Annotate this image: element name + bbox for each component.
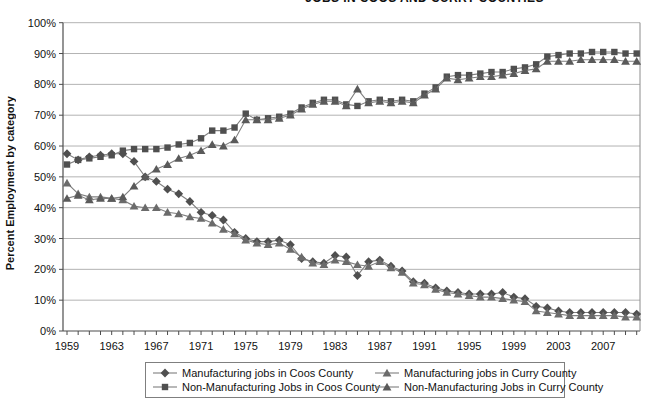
plot-area: 0%10%20%30%40%50%60%70%80%90%100%1959196… <box>0 0 649 360</box>
triangle-marker-icon <box>208 219 217 227</box>
legend: Manufacturing jobs in Coos County Manufa… <box>145 362 565 398</box>
y-tick-label: 40% <box>34 202 56 214</box>
diamond-marker-icon <box>208 211 217 220</box>
series-line <box>67 52 637 165</box>
series-line <box>67 60 637 200</box>
triangle-marker-icon <box>185 151 194 159</box>
square-marker-icon <box>164 144 170 150</box>
triangle-marker-icon <box>63 179 72 187</box>
legend-item-nonmfg-curry: Non-Manufacturing Jobs in Curry County <box>374 381 603 393</box>
series-0 <box>63 149 642 318</box>
x-tick-label: 1987 <box>368 340 392 352</box>
series-3 <box>63 55 642 203</box>
y-tick-label: 100% <box>28 17 56 29</box>
square-marker-icon <box>97 154 103 160</box>
y-tick-label: 20% <box>34 263 56 275</box>
square-marker-icon <box>187 140 193 146</box>
legend-item-mfg-coos: Manufacturing jobs in Coos County <box>152 367 374 379</box>
legend-label: Non-Manufacturing Jobs in Curry County <box>404 381 603 393</box>
x-tick-label: 1979 <box>278 340 302 352</box>
square-marker-icon <box>622 50 628 56</box>
square-marker-icon <box>231 124 237 130</box>
series-line <box>67 154 637 314</box>
series-2 <box>63 179 642 321</box>
diamond-marker-icon <box>163 185 172 194</box>
triangle-marker-icon <box>374 382 400 392</box>
triangle-marker-icon <box>163 160 172 168</box>
triangle-marker-icon <box>353 85 362 93</box>
square-marker-icon <box>198 135 204 141</box>
diamond-marker-icon <box>174 189 183 198</box>
square-marker-icon <box>152 382 178 392</box>
diamond-marker-icon <box>63 149 72 158</box>
square-marker-icon <box>162 384 168 390</box>
x-tick-label: 1963 <box>99 340 123 352</box>
y-tick-label: 90% <box>34 48 56 60</box>
square-marker-icon <box>176 141 182 147</box>
square-marker-icon <box>64 161 70 167</box>
square-marker-icon <box>589 49 595 55</box>
series-1 <box>64 49 640 168</box>
triangle-marker-icon <box>197 146 206 154</box>
square-marker-icon <box>86 155 92 161</box>
x-tick-label: 1959 <box>55 340 79 352</box>
square-marker-icon <box>153 146 159 152</box>
x-tick-label: 1983 <box>323 340 347 352</box>
legend-item-mfg-curry: Manufacturing jobs in Curry County <box>374 367 603 379</box>
triangle-marker-icon <box>163 208 172 216</box>
square-marker-icon <box>600 49 606 55</box>
legend-item-nonmfg-coos: Non-Manufacturing Jobs in Coos County <box>152 381 374 393</box>
triangle-marker-icon <box>374 368 400 378</box>
square-marker-icon <box>142 146 148 152</box>
y-tick-label: 0% <box>40 325 56 337</box>
square-marker-icon <box>131 146 137 152</box>
x-tick-label: 1967 <box>144 340 168 352</box>
diamond-marker-icon <box>152 177 161 186</box>
square-marker-icon <box>566 50 572 56</box>
x-tick-label: 1999 <box>502 340 526 352</box>
triangle-marker-icon <box>208 140 217 148</box>
triangle-marker-icon <box>152 165 161 173</box>
series-line <box>67 183 637 317</box>
square-marker-icon <box>120 147 126 153</box>
legend-label: Non-Manufacturing Jobs in Coos County <box>182 381 380 393</box>
triangle-marker-icon <box>219 225 228 233</box>
triangle-marker-icon <box>230 136 239 144</box>
square-marker-icon <box>108 152 114 158</box>
triangle-marker-icon <box>130 202 139 210</box>
diamond-marker-icon <box>152 368 178 378</box>
y-tick-label: 50% <box>34 171 56 183</box>
y-tick-label: 10% <box>34 294 56 306</box>
square-marker-icon <box>209 127 215 133</box>
x-tick-label: 1971 <box>189 340 213 352</box>
x-tick-label: 2007 <box>591 340 615 352</box>
x-tick-label: 2003 <box>546 340 570 352</box>
y-tick-label: 60% <box>34 140 56 152</box>
square-marker-icon <box>634 50 640 56</box>
chart-figure: JOBS IN COOS AND CURRY COUNTIES Percent … <box>0 0 649 408</box>
x-tick-label: 1975 <box>233 340 257 352</box>
square-marker-icon <box>611 49 617 55</box>
square-marker-icon <box>354 103 360 109</box>
x-tick-label: 1995 <box>457 340 481 352</box>
x-tick-label: 1991 <box>412 340 436 352</box>
y-tick-label: 30% <box>34 233 56 245</box>
square-marker-icon <box>220 127 226 133</box>
legend-label: Manufacturing jobs in Coos County <box>182 367 353 379</box>
diamond-marker-icon <box>130 157 139 166</box>
square-marker-icon <box>75 157 81 163</box>
y-tick-label: 70% <box>34 109 56 121</box>
y-tick-label: 80% <box>34 78 56 90</box>
legend-label: Manufacturing jobs in Curry County <box>404 367 576 379</box>
diamond-marker-icon <box>161 369 170 378</box>
